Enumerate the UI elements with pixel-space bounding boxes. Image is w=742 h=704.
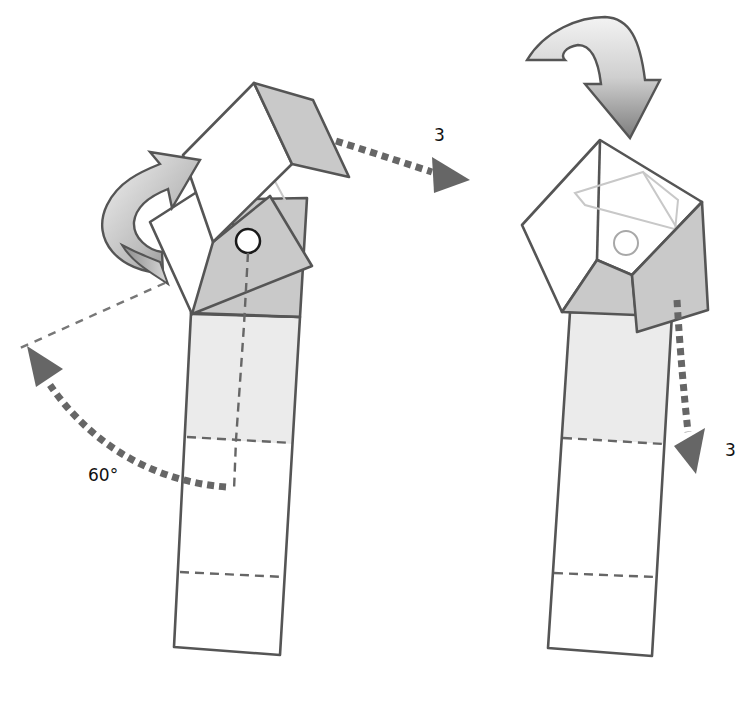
right-strip (548, 312, 672, 656)
origami-diagram (0, 0, 742, 704)
left-strip (174, 313, 300, 655)
right-step-model (522, 17, 708, 656)
pivot-circle-faint-marker (614, 231, 638, 255)
pivot-circle-marker (236, 229, 260, 253)
move-count-label-right: 3 (725, 442, 736, 459)
move-count-label-left: 3 (434, 127, 445, 144)
left-step-model (18, 83, 470, 655)
dotted-move-arrow-down-icon (674, 300, 705, 474)
angle-label: 60° (88, 467, 118, 484)
angle-guide-line (18, 283, 165, 349)
dotted-move-arrow-right-icon (336, 141, 470, 193)
curved-fold-down-arrow-icon (527, 17, 660, 138)
